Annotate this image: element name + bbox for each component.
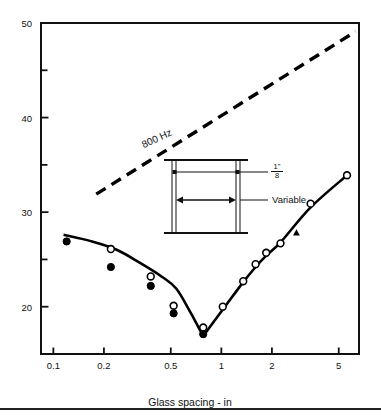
inset-arrowhead-right [229, 196, 236, 203]
x-axis-title: Glass spacing - in [148, 396, 231, 408]
inset-diagram [0, 0, 381, 415]
inset-thickness-label: 1" 8 [271, 163, 283, 180]
figure-container: Transmission loss - dB 20304050 0.10.20.… [0, 0, 381, 415]
inset-variable-label: Variable [272, 194, 306, 205]
inset-thickness-numerator: 1" [274, 162, 281, 171]
bottom-rule [0, 408, 381, 410]
inset-thickness-denominator: 8 [275, 171, 279, 180]
inset-thickness-marker-right [236, 170, 240, 174]
inset-thickness-marker-left [173, 170, 177, 174]
inset-arrowhead-left [176, 196, 183, 203]
